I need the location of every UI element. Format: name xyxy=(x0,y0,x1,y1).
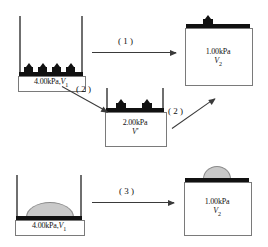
arrow-label-2b: ( 2 ) xyxy=(168,106,183,116)
pressure-value: 4.00kPa, xyxy=(34,77,60,86)
state-label-initial-top: 4.00kPa,V1 xyxy=(18,78,84,88)
volume-subscript: 2 xyxy=(219,60,222,66)
volume-subscript: 1 xyxy=(65,82,68,88)
diagram-canvas: 4.00kPa,V1 1.00kPa V2 2.00kPa V' 4. xyxy=(0,0,268,247)
cylinder-wall-left xyxy=(16,175,18,220)
pressure-value: 4.00kPa, xyxy=(32,221,58,230)
volume-subscript: 2 xyxy=(218,210,221,216)
state-label-final-top: 1.00kPa V2 xyxy=(185,48,251,67)
state-label-initial-bottom: 4.00kPa,V1 xyxy=(15,222,83,232)
volume-symbol: V' xyxy=(132,127,138,136)
cylinder-wall-left xyxy=(19,16,21,78)
arrow-label-2a: ( 2 ) xyxy=(76,84,91,94)
arrow-process-3 xyxy=(92,202,174,203)
arrow-label-1: ( 1 ) xyxy=(118,36,133,46)
arrow-label-3: ( 3 ) xyxy=(119,186,134,196)
state-label-intermediate: 2.00kPa V' xyxy=(105,119,165,136)
state-label-final-bottom: 1.00kPa V2 xyxy=(184,198,250,217)
cylinder-wall-right xyxy=(80,175,82,220)
sand-mound xyxy=(26,202,74,217)
arrow-process-1 xyxy=(92,52,176,53)
volume-subscript: 1 xyxy=(63,226,66,232)
cylinder-wall-right xyxy=(81,16,83,78)
